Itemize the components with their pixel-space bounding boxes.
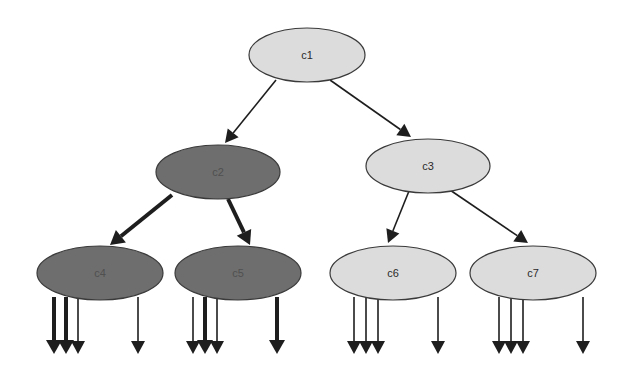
output-arrow-c7: [516, 297, 530, 354]
node-c5: c5: [175, 246, 301, 300]
node-label: c2: [212, 166, 224, 178]
node-label: c7: [527, 267, 539, 279]
node-label: c1: [301, 49, 313, 61]
arrowhead-icon: [186, 341, 200, 354]
node-c4: c4: [37, 246, 163, 300]
output-arrow-c4: [71, 297, 85, 354]
output-arrows-layer: [46, 297, 590, 354]
output-arrow-c6: [359, 297, 373, 354]
output-arrow-c4: [46, 297, 62, 354]
node-c1: c1: [249, 28, 365, 82]
node-label: c6: [387, 267, 399, 279]
node-c6: c6: [330, 246, 456, 300]
output-arrow-c7: [504, 297, 518, 354]
output-arrow-c5: [186, 297, 200, 354]
arrowhead-icon: [516, 341, 530, 354]
output-arrow-c5: [210, 297, 224, 354]
arrowhead-icon: [210, 341, 224, 354]
edge-c1-c2: [225, 80, 276, 143]
node-c2: c2: [156, 145, 280, 199]
arrowhead-icon: [431, 341, 445, 354]
arrowhead-icon: [576, 341, 590, 354]
arrowhead-icon: [131, 341, 145, 354]
output-arrow-c6: [371, 297, 385, 354]
output-arrow-c6: [347, 297, 361, 354]
edge-c2-c5: [228, 199, 251, 245]
node-label: c3: [422, 160, 434, 172]
output-arrow-c4: [131, 297, 145, 354]
node-label: c5: [232, 267, 244, 279]
node-c3: c3: [366, 139, 490, 193]
arrowhead-icon: [513, 230, 528, 243]
edge-c3-c6: [386, 191, 409, 243]
arrowhead-icon: [371, 341, 385, 354]
edge-c1-c3: [330, 80, 411, 137]
arrowhead-icon: [504, 341, 518, 354]
output-arrow-c4: [58, 297, 74, 354]
output-arrow-c7: [576, 297, 590, 354]
output-arrow-c5: [197, 297, 213, 354]
node-c7: c7: [470, 246, 596, 300]
arrowhead-icon: [492, 341, 506, 354]
output-arrow-c6: [431, 297, 445, 354]
arrowhead-icon: [347, 341, 361, 354]
tree-diagram: c1c2c3c4c5c6c7: [0, 0, 629, 374]
output-arrow-c5: [269, 297, 285, 354]
arrowhead-icon: [71, 341, 85, 354]
arrowhead-icon: [269, 340, 285, 354]
nodes-layer: c1c2c3c4c5c6c7: [37, 28, 596, 300]
edge-c2-c4: [110, 195, 172, 245]
edge-c3-c7: [450, 190, 528, 243]
arrowhead-icon: [359, 341, 373, 354]
output-arrow-c7: [492, 297, 506, 354]
arrowhead-icon: [396, 124, 411, 137]
node-label: c4: [94, 267, 106, 279]
arrowhead-icon: [225, 128, 239, 143]
